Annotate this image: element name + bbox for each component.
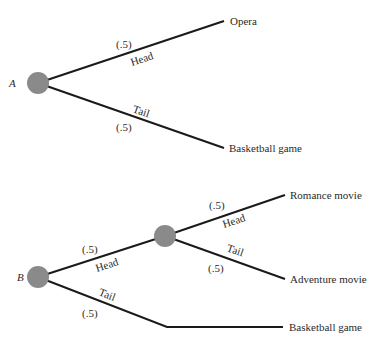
outcome-opera: Opera — [230, 15, 257, 27]
edge-a-tail — [38, 83, 224, 148]
prob-b-head-tail: (.5) — [208, 262, 224, 275]
prob-b-head: (.5) — [82, 243, 98, 256]
root-label-b: B — [17, 271, 24, 283]
prob-a-tail: (.5) — [116, 121, 132, 134]
outcome-romance-movie: Romance movie — [290, 189, 362, 201]
edge-a-head — [38, 21, 224, 83]
prob-b-head-head: (.5) — [209, 199, 225, 212]
root-label-a: A — [8, 77, 16, 89]
chance-node-b-head — [154, 225, 176, 247]
edge-b-tail — [38, 277, 283, 327]
edge-b-head-tail — [165, 236, 285, 279]
prob-a-head: (.5) — [116, 38, 132, 51]
decision-tree-diagram: A Opera Basketball game (.5) Head Tail (… — [0, 0, 389, 344]
outcome-basketball-a: Basketball game — [229, 142, 302, 154]
tree-b: B Romance movie Adventure movie Basketba… — [17, 189, 367, 333]
chance-node-b — [27, 266, 49, 288]
branch-label-b-head-head: Head — [221, 211, 247, 230]
edge-b-head-head — [165, 195, 285, 236]
branch-label-b-head-tail: Tail — [225, 242, 245, 259]
prob-b-tail: (.5) — [82, 307, 98, 320]
outcome-adventure-movie: Adventure movie — [290, 273, 367, 285]
outcome-basketball-b: Basketball game — [289, 321, 362, 333]
tree-a: A Opera Basketball game (.5) Head Tail (… — [8, 15, 302, 154]
chance-node-a — [27, 72, 49, 94]
